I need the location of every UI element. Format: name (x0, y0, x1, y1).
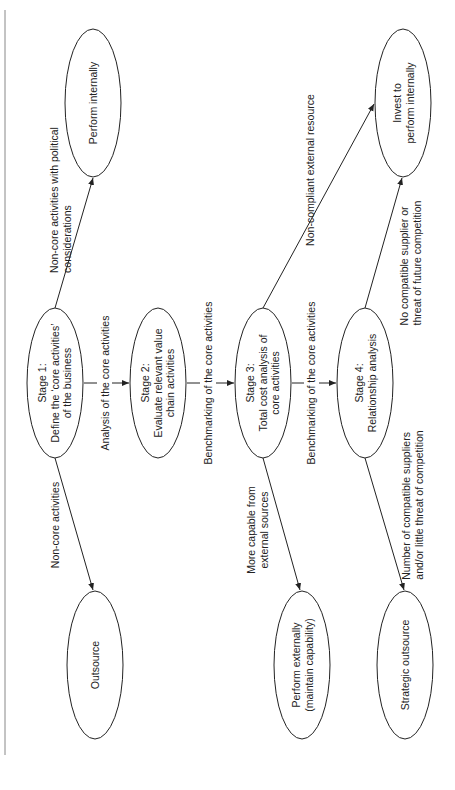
perform-externally-label-2: (maintain capability) (302, 618, 315, 711)
edge-label-s4-strategic: Number of compatible suppliers and/or li… (400, 430, 425, 579)
edge-label-s3-invest: Non-compliant external resource (304, 94, 317, 246)
stage3-desc-2: core activities (269, 335, 282, 432)
strategic-outsource-label: Strategic outsource (399, 620, 412, 710)
stage1-node: Stage 1: Define the ‘core activities’ of… (36, 323, 74, 442)
stage4-desc: Relationship analysis (365, 334, 378, 433)
perform-internally-label: Perform internally (87, 62, 100, 144)
edge-label-text: Non-core activities (49, 482, 62, 568)
stage1-title: Stage 1: (36, 323, 49, 442)
edge-label-text-1: No compatible supplier or (398, 201, 411, 326)
stage2-node: Stage 2: Evaluate relevant value chain a… (139, 328, 177, 437)
edge-label-text: Analysis of the core activities (99, 316, 112, 451)
invest-internally-label-1: Invest to (391, 62, 404, 143)
edge-label-text: Benchmarking of the core activities (202, 302, 215, 465)
edge-label-text: Benchmarking of the core activities (305, 302, 318, 465)
edge-label-s3-perform-externally: More capable from external sources (245, 486, 270, 574)
stage4-node: Stage 4: Relationship analysis (353, 334, 378, 433)
edge-label-text-2: external sources (257, 486, 270, 574)
edge-label-text-2: threat of future competition (410, 201, 423, 326)
stage2-desc-1: Evaluate relevant value (152, 328, 165, 437)
perform-internally-node: Perform internally (87, 62, 100, 144)
edge-label-text-1: Number of compatible suppliers (400, 430, 413, 579)
edge-label-s2-s3: Benchmarking of the core activities (202, 302, 215, 465)
edge-label-s1-perform-internally: Non-core activities with political consi… (48, 127, 73, 273)
outsource-node: Outsource (89, 641, 102, 689)
invest-internally-node: Invest to perform internally (391, 62, 416, 143)
stage3-node: Stage 3: Total cost analysis of core act… (244, 335, 282, 432)
stage3-title: Stage 3: (244, 335, 257, 432)
edge-label-s1-s2: Analysis of the core activities (99, 316, 112, 451)
edge-label-text: Non-compliant external resource (304, 94, 317, 246)
stage4-title: Stage 4: (353, 334, 366, 433)
perform-externally-node: Perform externally (maintain capability) (290, 618, 315, 711)
edge-label-text-1: More capable from (245, 486, 258, 574)
stage1-desc-2: of the business (61, 323, 74, 442)
stage2-title: Stage 2: (139, 328, 152, 437)
outsource-label: Outsource (89, 641, 102, 689)
edge-label-s3-s4: Benchmarking of the core activities (305, 302, 318, 465)
edge-label-s4-invest: No compatible supplier or threat of futu… (398, 201, 423, 326)
edge-label-s1-outsource: Non-core activities (49, 482, 62, 568)
stage1-desc-1: Define the ‘core activities’ (49, 323, 62, 442)
invest-internally-label-2: perform internally (403, 62, 416, 143)
edge-label-text-2: and/or little threat of competition (412, 430, 425, 579)
edge-label-text-2: considerations (60, 127, 73, 273)
stage2-desc-2: chain activities (164, 328, 177, 437)
strategic-outsource-node: Strategic outsource (399, 620, 412, 710)
edge-label-text-1: Non-core activities with political (48, 127, 61, 273)
stage3-desc-1: Total cost analysis of (257, 335, 270, 432)
perform-externally-label-1: Perform externally (290, 618, 303, 711)
